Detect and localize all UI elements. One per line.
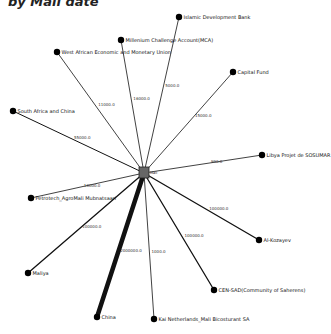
edge-label-cen-sad: 100000.0 [185,233,205,238]
edge-label-south-africa-and-china: 55000.0 [74,135,91,140]
node-label-millennium-challenge-account: Millenium Challenge Account(MCA) [126,37,214,44]
node-cen-sad[interactable] [211,287,217,293]
node-label-cen-sad: CEN-SAD(Community of Saherens) [219,287,306,294]
edge-millennium-challenge-account [121,40,144,173]
edge-label-west-african-economic-monetary-union: 11000.0 [98,102,115,107]
node-label-center: Mali [150,171,157,175]
node-china[interactable] [94,314,100,320]
node-label-maliya: Maliya [33,270,49,277]
node-center-mali[interactable] [139,167,149,178]
edge-label-capital-fund: 15000.0 [195,113,212,118]
node-west-african-economic-monetary-union[interactable] [54,49,60,55]
edge-south-africa-and-china [13,111,144,173]
node-label-china: China [102,314,116,320]
edge-label-petrotech-agromali: 10000.0 [84,183,101,188]
edge-label-al-kozayev: 100000.0 [209,206,229,211]
node-label-west-african-economic-monetary-union: West African Economic and Monetary Union [62,49,171,56]
edge-cen-sad [144,173,214,290]
edge-label-maliya: 100000.0 [82,224,102,229]
node-islamic-development-bank[interactable] [176,14,182,20]
node-maliya[interactable] [25,270,31,276]
edge-label-libya-projet-sosumar: 990.0 [211,159,223,164]
edge-capital-fund [144,72,233,173]
node-label-libya-projet-sosumar: Libya Projet de SOSUMAR [267,152,331,159]
node-label-south-africa-and-china: South Africa and China [18,108,75,114]
node-kai-netherlands-mali[interactable] [151,316,157,322]
node-millennium-challenge-account[interactable] [118,37,124,43]
edge-label-millennium-challenge-account: 16000.0 [133,96,150,101]
node-south-africa-and-china[interactable] [10,108,16,114]
node-label-al-kozayev: Al-Kozayev [264,237,291,244]
node-label-islamic-development-bank: Islamic Development Bank [184,14,251,21]
edge-libya-projet-sosumar [144,155,262,173]
node-label-kai-netherlands-mali: Kai Netherlands_Mali Bicosturant SA [159,316,250,323]
network-graph: 5000.016000.011000.015000.055000.0990.01… [0,0,331,334]
edge-label-china: 2000000.0 [120,248,142,253]
node-al-kozayev[interactable] [256,237,262,243]
edge-al-kozayev [144,173,259,240]
edge-label-kai-netherlands-mali: 1000.0 [152,249,166,254]
node-label-capital-fund: Capital Fund [238,69,269,76]
edge-label-islamic-development-bank: 5000.0 [165,83,179,88]
node-libya-projet-sosumar[interactable] [259,152,265,158]
node-label-petrotech-agromali: Petrotech_AgroMali Mubnatsaari [36,195,117,202]
node-petrotech-agromali[interactable] [28,195,34,201]
edge-kai-netherlands-mali [144,173,154,319]
node-capital-fund[interactable] [230,69,236,75]
